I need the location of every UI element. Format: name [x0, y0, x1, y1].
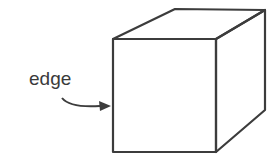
cube: [113, 9, 265, 152]
cube-right-face: [216, 10, 265, 152]
cube-diagram: edge: [0, 0, 280, 160]
cube-front-face: [113, 39, 216, 152]
arrow-icon: [62, 98, 111, 111]
edge-label: edge: [29, 68, 71, 89]
